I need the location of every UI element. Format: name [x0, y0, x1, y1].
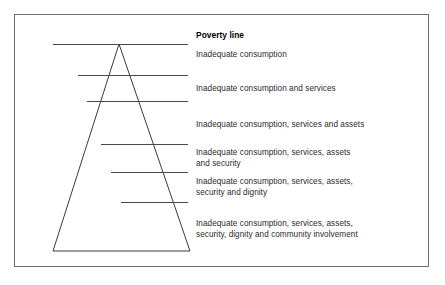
tier-4-label: Inadequate consumption, services, assets… [196, 148, 350, 169]
poverty-pyramid-figure: Poverty line Inadequate consumption Inad… [0, 0, 445, 285]
poverty-line-label: Poverty line [196, 30, 244, 41]
label-column: Poverty line Inadequate consumption Inad… [196, 0, 431, 285]
tier-1-label: Inadequate consumption [196, 50, 287, 61]
tier-2-label: Inadequate consumption and services [196, 84, 336, 95]
tier-5-label: Inadequate consumption, services, assets… [196, 177, 353, 198]
tier-6-label: Inadequate consumption, services, assets… [196, 219, 358, 240]
tier-3-label: Inadequate consumption, services and ass… [196, 120, 364, 131]
